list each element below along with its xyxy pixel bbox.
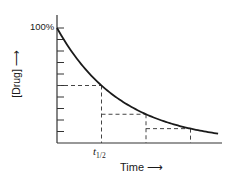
- y-tick-label-100: 100%: [30, 21, 54, 32]
- decay-curve: [57, 28, 218, 134]
- x-axis-label: Time ⟶: [120, 161, 163, 174]
- thalf-sub: 1/2: [96, 151, 106, 160]
- y-axis-label: [Drug] ⟶: [10, 50, 22, 98]
- half-life-guides: [57, 86, 191, 144]
- axes: [57, 15, 222, 143]
- y-axis-ticks: [57, 28, 64, 132]
- x-tick-label-half-life: t1/2: [93, 145, 106, 160]
